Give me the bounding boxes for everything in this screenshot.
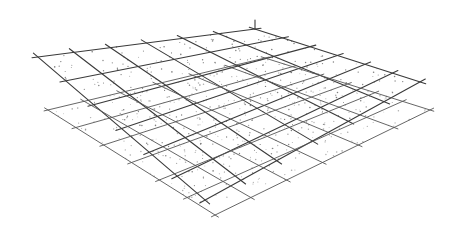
- sample-point: [168, 96, 169, 97]
- sample-point: [303, 81, 304, 82]
- sample-point: [267, 98, 268, 99]
- sample-point: [199, 118, 201, 120]
- sample-point: [203, 178, 204, 179]
- sample-point: [402, 81, 403, 82]
- sample-point: [312, 132, 313, 133]
- sample-point: [226, 136, 227, 137]
- sample-point: [294, 105, 295, 106]
- sample-point: [184, 44, 185, 45]
- sample-point: [228, 156, 230, 158]
- sample-point: [216, 73, 217, 74]
- sample-point: [191, 171, 193, 173]
- sample-point: [340, 79, 341, 80]
- sample-point: [65, 77, 66, 78]
- sample-point: [206, 96, 207, 97]
- sample-point: [316, 64, 317, 65]
- sample-point: [84, 89, 85, 90]
- sample-point: [294, 169, 295, 170]
- sample-point: [94, 102, 95, 103]
- sample-point: [267, 100, 268, 101]
- sample-point: [181, 176, 182, 177]
- sample-point: [155, 125, 157, 127]
- sample-point: [379, 80, 380, 81]
- sample-point: [250, 94, 251, 95]
- sample-point: [212, 39, 214, 41]
- sample-point: [210, 106, 211, 107]
- sample-point: [195, 150, 196, 151]
- sample-point: [236, 135, 237, 136]
- sample-point: [333, 121, 334, 122]
- sample-point: [257, 181, 258, 182]
- sample-point: [322, 111, 323, 112]
- sample-point: [273, 171, 274, 172]
- sample-point: [270, 93, 271, 94]
- sample-point: [322, 63, 323, 64]
- sample-point: [151, 71, 152, 72]
- sample-point: [343, 102, 344, 103]
- sample-point: [102, 142, 103, 143]
- sample-point: [360, 111, 361, 112]
- sample-point: [194, 185, 195, 186]
- sample-point: [247, 59, 248, 60]
- sample-point: [295, 61, 296, 62]
- sample-point: [249, 132, 250, 133]
- sample-point: [196, 111, 197, 112]
- sample-point: [294, 102, 295, 103]
- grid-line-v: [211, 108, 433, 217]
- sample-point: [394, 76, 396, 78]
- sample-point: [259, 178, 260, 179]
- sample-point: [221, 72, 222, 73]
- sample-point: [188, 69, 189, 70]
- sample-point: [319, 90, 320, 91]
- sample-point: [229, 166, 230, 167]
- sample-point: [325, 141, 326, 142]
- sample-point: [122, 63, 123, 64]
- sample-point: [113, 128, 114, 129]
- sample-point: [331, 136, 332, 137]
- sample-point: [165, 155, 166, 156]
- sample-point: [224, 171, 225, 172]
- sample-point: [271, 95, 272, 96]
- sample-point: [305, 74, 306, 75]
- sample-point: [195, 89, 196, 90]
- sample-point: [195, 195, 196, 196]
- sample-point: [117, 68, 118, 69]
- sample-point: [215, 134, 216, 135]
- sample-point: [229, 57, 230, 58]
- sample-point: [202, 158, 203, 159]
- sample-point: [163, 46, 165, 48]
- sample-point: [372, 76, 373, 77]
- sample-point: [385, 97, 386, 98]
- sample-point: [277, 92, 279, 94]
- sample-point: [149, 116, 150, 117]
- sample-point: [59, 66, 60, 67]
- sample-point: [324, 122, 325, 123]
- sample-point: [93, 79, 94, 80]
- sample-point: [254, 150, 255, 151]
- sample-point: [359, 109, 360, 110]
- sample-point: [281, 95, 282, 96]
- sample-point: [179, 90, 180, 91]
- sample-point: [253, 182, 254, 183]
- sample-point: [349, 112, 350, 113]
- sample-point: [250, 159, 251, 160]
- sample-point: [222, 71, 223, 72]
- sample-point: [392, 92, 393, 93]
- sample-point: [265, 62, 266, 63]
- sample-point: [207, 200, 208, 201]
- sample-point: [394, 80, 395, 81]
- sample-point: [202, 59, 203, 60]
- sample-point: [241, 176, 242, 177]
- sample-point: [128, 128, 129, 129]
- sample-point: [284, 127, 285, 128]
- sample-point: [184, 188, 185, 189]
- sample-point: [337, 92, 339, 94]
- sample-point: [235, 173, 236, 174]
- sample-point: [324, 124, 326, 126]
- sample-point: [122, 110, 123, 111]
- sample-point: [103, 70, 104, 71]
- sample-point: [288, 144, 289, 145]
- sample-point: [215, 63, 216, 64]
- sample-point: [123, 109, 124, 110]
- sample-point: [284, 174, 285, 175]
